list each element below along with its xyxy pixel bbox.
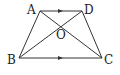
segment-ab bbox=[19, 11, 40, 58]
trapezoid-diagram: A D B C O bbox=[0, 0, 120, 75]
label-d: D bbox=[84, 3, 94, 17]
parallel-arrow-bc-icon bbox=[58, 56, 63, 60]
diagonal-bd bbox=[19, 11, 82, 58]
diagonal-ac bbox=[40, 11, 102, 58]
label-c: C bbox=[104, 53, 113, 67]
parallel-arrow-ad-icon bbox=[58, 9, 63, 13]
label-b: B bbox=[7, 53, 16, 67]
label-a: A bbox=[26, 3, 36, 17]
label-o: O bbox=[56, 28, 66, 42]
